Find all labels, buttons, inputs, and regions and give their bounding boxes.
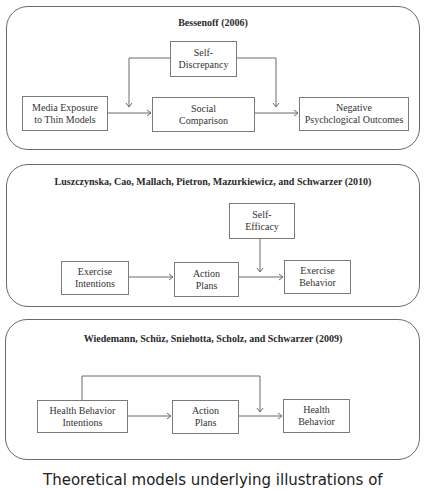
node-action-plans: Action Plans xyxy=(174,262,239,297)
node-label-line2: Efficacy xyxy=(245,221,279,233)
panel-title-luszczynska: Luszczynska, Cao, Mallach, Pietron, Mazu… xyxy=(10,176,416,187)
node-label-line1: Negative xyxy=(336,102,372,114)
node-self-efficacy: Self- Efficacy xyxy=(229,203,295,239)
node-exercise-intentions: Exercise Intentions xyxy=(61,261,129,295)
node-label-line1: Health xyxy=(303,404,330,416)
node-label-line1: Exercise xyxy=(78,266,112,278)
node-label-line1: Self- xyxy=(252,209,271,221)
node-label-line1: Exercise xyxy=(300,265,334,277)
node-negative-outcomes: Negative Psychclogical Outcomes xyxy=(299,97,409,131)
node-label-line2: to Thin Models xyxy=(34,114,95,126)
node-label-line1: Media Exposure xyxy=(32,102,98,114)
node-media-exposure: Media Exposure to Thin Models xyxy=(22,96,108,131)
node-label-line2: Psychclogical Outcomes xyxy=(305,114,404,126)
node-label-line1: Social xyxy=(191,103,216,115)
node-label-line1: Self- xyxy=(194,47,213,59)
node-label-line2: Intentions xyxy=(75,278,115,290)
node-label-line2: Discrepancy xyxy=(179,59,229,71)
node-label-line2: Behavior xyxy=(298,416,335,428)
node-exercise-behavior: Exercise Behavior xyxy=(284,260,351,294)
node-health-behavior-intentions: Health Behavior Intentions xyxy=(37,400,128,433)
node-label-line2: Intentions xyxy=(63,417,103,429)
node-label-line2: Behavior xyxy=(299,277,336,289)
node-self-discrepancy: Self- Discrepancy xyxy=(170,41,237,77)
node-label-line2: Comparison xyxy=(179,115,228,127)
panel-title-bessenoff: Bessenoff (2006) xyxy=(0,17,426,28)
node-social-comparison: Social Comparison xyxy=(152,97,255,132)
node-action-plans: Action Plans xyxy=(172,400,239,434)
panel-title-wiedemann: Wiedemann, Schüz, Sniehotta, Scholz, and… xyxy=(0,333,426,344)
node-label-line1: Action xyxy=(193,268,220,280)
node-label-line2: Plans xyxy=(196,280,218,292)
figure-caption: Theoretical models underlying illustrati… xyxy=(43,471,383,489)
node-label-line1: Action xyxy=(192,405,219,417)
node-label-line2: Plans xyxy=(195,417,217,429)
node-label-line1: Health Behavior xyxy=(50,405,116,417)
node-health-behavior: Health Behavior xyxy=(283,399,350,433)
